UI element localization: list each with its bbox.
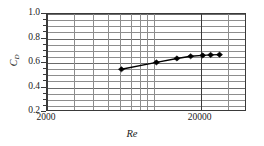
y-axis-tick-mark xyxy=(41,13,46,14)
y-axis-tick-mark xyxy=(43,68,46,69)
y-axis-tick-label: 0.8 xyxy=(8,33,40,43)
y-axis-tick-mark xyxy=(41,38,46,39)
y-axis-title-base: C xyxy=(8,60,19,67)
chart-figure: 0.20.40.60.81.0 200020000 CD Re xyxy=(0,0,264,146)
y-axis-tick-label: 1.0 xyxy=(8,8,40,18)
y-axis-tick-mark xyxy=(43,25,46,26)
y-axis-tick-mark xyxy=(43,56,46,57)
data-point-marker xyxy=(118,67,124,72)
series-line xyxy=(121,55,219,70)
y-axis-tick-label: 0.4 xyxy=(8,82,40,92)
x-axis-tick-label: 2000 xyxy=(23,113,69,123)
x-axis-tick-label: 20000 xyxy=(177,113,223,123)
data-point-marker xyxy=(174,56,180,61)
y-axis-tick-mark xyxy=(43,105,46,106)
data-point-marker xyxy=(188,54,194,59)
y-axis-title: CD xyxy=(8,55,21,67)
data-series-layer xyxy=(47,14,246,111)
y-axis-tick-mark xyxy=(41,87,46,88)
y-axis-tick-mark xyxy=(43,74,46,75)
data-point-marker xyxy=(217,52,223,57)
data-point-marker xyxy=(200,53,206,58)
y-axis-title-subscript: D xyxy=(13,55,21,60)
y-axis-tick-mark xyxy=(43,31,46,32)
data-point-marker xyxy=(208,52,214,57)
x-axis-title: Re xyxy=(0,128,264,139)
y-axis-tick-mark xyxy=(43,99,46,100)
plot-area xyxy=(46,13,246,111)
data-point-marker xyxy=(153,60,159,65)
y-axis-tick-mark xyxy=(43,80,46,81)
y-axis-tick-mark xyxy=(41,62,46,63)
y-axis-tick-mark xyxy=(43,50,46,51)
y-axis-tick-mark xyxy=(43,93,46,94)
y-axis-tick-mark xyxy=(43,44,46,45)
y-axis-tick-mark xyxy=(43,19,46,20)
